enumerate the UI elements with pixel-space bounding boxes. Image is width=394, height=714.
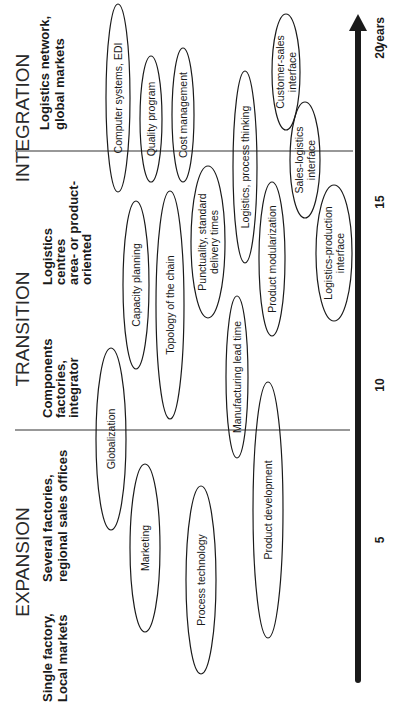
phase-title-transition: TRANSITION	[12, 271, 33, 386]
topic-label: delivery times	[208, 210, 220, 274]
topic-logistics-production-interface: Logistics-productioninterface	[316, 185, 352, 321]
topic-label: Process technology	[195, 533, 207, 625]
topic-manufacturing-lead-time: Manufacturing lead time	[226, 296, 248, 458]
logistics-evolution-diagram: INTEGRATION TRANSITION EXPANSION Logisti…	[0, 0, 394, 714]
stage-logistics-centres: Logistics centres area- or product- orie…	[40, 181, 94, 285]
phase-title-expansion: EXPANSION	[12, 507, 33, 616]
topic-label: Sales-logistics	[293, 126, 305, 193]
topic-topology-of-chain: Topology of the chain	[156, 191, 184, 419]
stage-line: regional sales offices	[55, 450, 70, 582]
topic-label: Product development	[262, 460, 274, 559]
topic-label: interface	[334, 233, 346, 273]
topic-label: interface	[286, 52, 298, 92]
topic-quality-program: Quality program	[140, 56, 162, 182]
stage-single-factory: Single factory, Local markets	[40, 613, 70, 702]
topic-label: Quality program	[145, 81, 157, 156]
topic-label: Logistics-production	[322, 206, 334, 300]
stage-line: Local markets	[55, 615, 70, 702]
axis-tick-15: 15	[373, 195, 387, 209]
stage-line: Single factory,	[40, 613, 55, 702]
topic-label: Cost management	[177, 72, 189, 158]
stage-line: oriented	[79, 234, 94, 285]
topic-label: Topology of the chain	[164, 255, 176, 354]
topic-label: Punctuality, standard	[196, 193, 208, 290]
topic-capacity-planning: Capacity planning	[123, 201, 149, 369]
phase-title-integration: INTEGRATION	[12, 54, 33, 182]
topic-label: Capacity planning	[130, 243, 142, 327]
time-axis-arrowhead	[349, 14, 367, 31]
stage-components-factories: Components factories, integrator	[40, 339, 81, 418]
topic-ellipses: Computer systems, EDIQuality programCost…	[96, 4, 352, 674]
stage-line: Logistics network,	[37, 16, 52, 130]
stage-several-factories: Several factories, regional sales office…	[40, 450, 70, 582]
stage-line: Several factories,	[40, 474, 55, 582]
topic-label: interface	[305, 140, 317, 180]
topic-process-technology: Process technology	[186, 486, 216, 674]
time-axis: 5101520 years	[349, 14, 387, 680]
topic-punctuality: Punctuality, standarddelivery times	[191, 166, 225, 318]
topic-logistics-process-thinking: Logistics, process thinking	[233, 71, 257, 263]
stage-line: integrator	[66, 357, 81, 418]
topic-product-development: Product development	[253, 382, 283, 638]
stage-logistics-network: Logistics network, global markets	[37, 16, 67, 130]
topic-cost-management: Cost management	[172, 48, 194, 182]
stage-line: global markets	[52, 38, 67, 130]
topic-label: Manufacturing lead time	[231, 321, 243, 433]
topic-label: Logistics, process thinking	[239, 106, 251, 229]
topic-label: Product modularization	[266, 205, 278, 313]
topic-label: Globalization	[105, 408, 117, 469]
topic-label: Customer-sales	[274, 35, 286, 109]
topic-product-modularization: Product modularization	[259, 182, 285, 336]
topic-marketing: Marketing	[130, 464, 160, 632]
axis-unit-label: years	[373, 17, 387, 49]
topic-globalization: Globalization	[96, 348, 126, 530]
axis-tick-10: 10	[373, 378, 387, 392]
topic-label: Marketing	[139, 525, 151, 571]
topic-sales-logistics-interface: Sales-logisticsinterface	[290, 102, 320, 218]
topic-label: Computer systems, EDI	[112, 43, 124, 154]
axis-tick-5: 5	[373, 536, 387, 543]
topic-computer-systems: Computer systems, EDI	[106, 4, 130, 192]
